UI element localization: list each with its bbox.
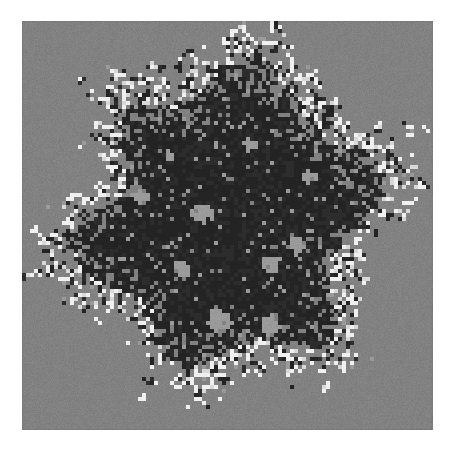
figure-root <box>0 0 457 452</box>
cluster-raster <box>22 21 433 430</box>
plot-panel <box>22 21 433 430</box>
